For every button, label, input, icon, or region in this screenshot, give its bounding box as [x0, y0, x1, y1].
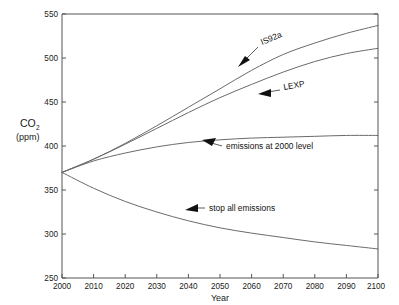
series-line-is92a [62, 25, 378, 172]
y-label-400: 400 [44, 142, 58, 151]
annotation-is92a: IS92a [238, 29, 283, 67]
lexp-label: LEXP [283, 78, 306, 92]
x-tick-labels: 2000 2010 2020 2030 2040 2050 2060 2070 … [53, 282, 386, 291]
y-label-450: 450 [44, 98, 58, 107]
y-axis-title-main: CO [20, 117, 36, 129]
x-label-2050: 2050 [211, 282, 230, 291]
x-label-2100: 2100 [367, 282, 386, 291]
annotation-lexp: LEXP [258, 78, 306, 97]
chart-canvas: 550 500 450 400 350 300 250 2000 2010 [0, 0, 399, 305]
annotation-stop-all: stop all emissions [185, 203, 275, 213]
y-label-350: 350 [44, 186, 58, 195]
y-axis-title-subscript: 2 [36, 124, 40, 131]
x-tick-group [62, 274, 378, 278]
is92a-arrow-icon [238, 56, 250, 67]
x-label-2010: 2010 [84, 282, 103, 291]
x-label-2030: 2030 [148, 282, 167, 291]
x-label-2080: 2080 [306, 282, 325, 291]
series-group [62, 25, 378, 249]
y-tick-group [62, 14, 378, 278]
series-line-lexp [62, 48, 378, 172]
emissions-2000-arrow-icon [202, 138, 216, 146]
is92a-label: IS92a [259, 29, 283, 47]
y-label-550: 550 [44, 10, 58, 19]
stop-all-arrow-icon [185, 204, 198, 212]
y-tick-labels: 550 500 450 400 350 300 250 [44, 10, 58, 283]
y-label-500: 500 [44, 54, 58, 63]
y-axis-title: CO 2 (ppm) [16, 117, 40, 142]
stop-all-label: stop all emissions [209, 203, 275, 213]
emissions-2000-label: emissions at 2000 level [226, 141, 313, 151]
x-label-2000: 2000 [53, 282, 72, 291]
lexp-arrow-icon [258, 89, 271, 97]
x-label-2020: 2020 [116, 282, 135, 291]
x-label-2060: 2060 [242, 282, 261, 291]
series-line-emissions-2000 [62, 135, 378, 172]
x-label-2040: 2040 [179, 282, 198, 291]
axis-frame [62, 14, 378, 278]
y-axis-title-unit: (ppm) [16, 132, 40, 142]
co2-projection-figure: 550 500 450 400 350 300 250 2000 2010 [0, 0, 399, 305]
x-label-2070: 2070 [274, 282, 293, 291]
y-label-300: 300 [44, 230, 58, 239]
x-label-2090: 2090 [337, 282, 356, 291]
x-axis-title: Year [211, 293, 229, 303]
